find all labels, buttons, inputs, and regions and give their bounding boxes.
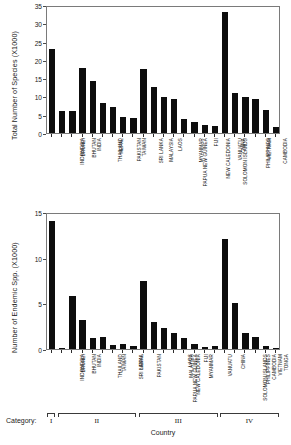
y-tick-label: 30: [35, 21, 42, 28]
bar: [171, 99, 177, 133]
x-tick-mark: [214, 350, 215, 353]
bar: [130, 118, 136, 133]
y-tick-label: 10: [35, 94, 42, 101]
bar: [90, 338, 96, 349]
x-tick-mark: [143, 134, 144, 137]
x-tick-label: BRUNEI: [82, 138, 87, 156]
x-tick-label: CAMBODIA: [272, 354, 277, 380]
x-tick-mark: [51, 350, 52, 353]
y-tick-label: 10: [35, 255, 42, 262]
bar: [59, 111, 65, 133]
x-tick-label: CAMBODIA: [282, 138, 287, 164]
x-tick-mark: [153, 350, 154, 353]
bar: [130, 346, 136, 349]
x-tick-mark: [163, 350, 164, 353]
x-tick-label: LAOS: [188, 354, 193, 367]
y-tick-label: 15: [35, 210, 42, 217]
x-tick-label: VANUATU: [228, 354, 233, 376]
category-roman-numeral: III: [175, 417, 182, 425]
bar: [263, 110, 269, 133]
top-bar-series: [47, 7, 279, 133]
x-tick-mark: [61, 350, 62, 353]
x-tick-mark: [275, 134, 276, 137]
bar: [90, 81, 96, 133]
x-tick-label: NEPAL: [119, 138, 124, 153]
bar: [232, 93, 238, 133]
y-tick-label: 20: [35, 57, 42, 64]
x-tick-mark: [163, 134, 164, 137]
y-tick-label: 5: [38, 112, 42, 119]
category-roman-numeral: I: [50, 417, 52, 425]
x-tick-mark: [112, 134, 113, 137]
x-tick-label: PHILIPPINES: [266, 354, 271, 384]
bar: [110, 107, 116, 133]
x-axis-title: Country: [151, 429, 176, 436]
x-tick-label: TAIWAN: [143, 138, 148, 156]
x-tick-label: INDIA: [97, 138, 102, 151]
bottom-plot-area: [46, 213, 280, 350]
bar: [252, 337, 258, 349]
bottom-bar-series: [47, 214, 279, 349]
x-tick-label: CHINA: [241, 138, 246, 153]
bar: [181, 119, 187, 133]
x-tick-label: NEW CALEDONIA: [195, 354, 200, 395]
x-tick-mark: [71, 350, 72, 353]
bar: [171, 333, 177, 349]
x-tick-mark: [71, 134, 72, 137]
bottom-y-axis-title: Number of Endemic Spp. (X1000): [10, 242, 19, 353]
x-tick-label: NEW CALEDONIA: [226, 138, 231, 179]
bar: [110, 345, 116, 349]
x-tick-mark: [244, 134, 245, 137]
category-roman-numeral: IV: [246, 417, 253, 425]
x-tick-mark: [122, 350, 123, 353]
x-tick-mark: [183, 134, 184, 137]
chart-endemic-species: Number of Endemic Spp. (X1000) 051015 IN…: [0, 205, 291, 445]
x-tick-mark: [153, 134, 154, 137]
x-tick-mark: [82, 134, 83, 137]
x-tick-label: VIETNAM: [268, 138, 273, 159]
category-roman-numeral: II: [95, 417, 100, 425]
bar: [59, 348, 65, 349]
bar: [69, 111, 75, 133]
x-tick-mark: [92, 350, 93, 353]
y-tick-label: 5: [38, 301, 42, 308]
x-tick-mark: [92, 134, 93, 137]
bar: [222, 12, 228, 133]
x-tick-label: SRI LANKA: [160, 138, 165, 163]
x-tick-mark: [234, 134, 235, 137]
bar: [140, 281, 146, 349]
x-tick-mark: [122, 134, 123, 137]
chart-total-species: Total Number of Species (X1000) 05101520…: [0, 0, 291, 205]
x-tick-label: CHINA: [241, 354, 246, 369]
y-tick-mark: [43, 134, 46, 135]
top-y-axis-title: Total Number of Species (X1000): [10, 31, 19, 140]
bar: [69, 296, 75, 349]
x-tick-label: INDIA: [97, 354, 102, 367]
x-tick-mark: [183, 350, 184, 353]
x-tick-label: VIETNAM: [278, 354, 283, 375]
y-tick-label: 0: [38, 131, 42, 138]
y-tick-label: 15: [35, 76, 42, 83]
x-tick-mark: [132, 350, 133, 353]
x-tick-mark: [112, 350, 113, 353]
x-tick-mark: [194, 134, 195, 137]
x-tick-mark: [265, 350, 266, 353]
bar: [212, 126, 218, 133]
x-tick-label: PAKISTAN: [158, 354, 163, 377]
bar: [273, 348, 279, 349]
y-tick-label: 35: [35, 3, 42, 10]
bar: [222, 239, 228, 349]
bar: [100, 337, 106, 349]
x-tick-label: FIJI: [214, 138, 219, 146]
x-tick-mark: [102, 350, 103, 353]
x-tick-mark: [244, 350, 245, 353]
bar: [263, 346, 269, 349]
x-tick-mark: [255, 350, 256, 353]
figure-species-endemics: Total Number of Species (X1000) 05101520…: [0, 0, 291, 445]
top-plot-area: [46, 6, 280, 134]
bar: [79, 68, 85, 133]
bar: [100, 103, 106, 133]
x-tick-label: MALAYSIA: [168, 138, 173, 162]
x-tick-mark: [173, 134, 174, 137]
bar: [120, 117, 126, 133]
